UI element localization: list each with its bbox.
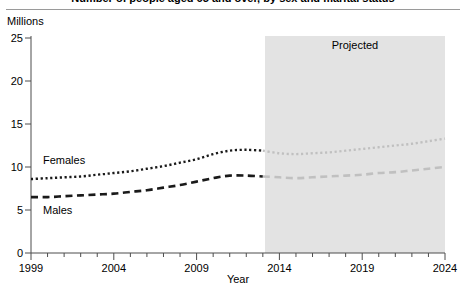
y-tick-label: 20	[11, 75, 23, 87]
y-tick-label: 15	[11, 118, 23, 130]
x-tick-label: 2024	[433, 262, 457, 274]
x-tick-label: 2014	[267, 262, 291, 274]
x-tick-label: 1999	[19, 262, 43, 274]
x-axis-major-ticks	[31, 253, 445, 260]
x-tick-label: 2019	[350, 262, 374, 274]
x-tick-label: 2009	[184, 262, 208, 274]
series-line-males-historical	[31, 175, 263, 197]
y-tick-label: 10	[11, 161, 23, 173]
y-tick-label: 25	[11, 32, 23, 44]
y-tick-label: 5	[17, 204, 23, 216]
y-axis-tick-marks	[25, 38, 31, 253]
line-chart-plot: Projected 0510152025 1999200420092014201…	[0, 0, 466, 290]
projected-band-label: Projected	[332, 39, 378, 51]
series-label-males: Males	[43, 204, 73, 216]
series-label-females: Females	[43, 154, 86, 166]
chart-figure: Number of people aged 65 and over, by se…	[0, 0, 466, 290]
x-axis-title: Year	[227, 273, 250, 285]
y-axis-tick-labels: 0510152025	[11, 32, 23, 259]
x-axis-minor-ticks	[48, 253, 429, 257]
x-tick-label: 2004	[102, 262, 126, 274]
projected-band	[265, 36, 445, 253]
y-tick-label: 0	[17, 247, 23, 259]
